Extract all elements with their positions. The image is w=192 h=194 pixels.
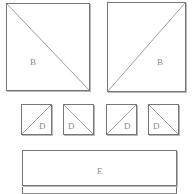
panel-d-3-label: D (124, 122, 131, 131)
panel-d-3[interactable] (106, 104, 137, 135)
panel-b-right-label: B (157, 58, 163, 67)
panel-b-left-label: B (30, 58, 36, 67)
diagonal-line-bl-tr (107, 105, 136, 134)
diagonal-line-tl-br (7, 4, 89, 90)
panel-b-left[interactable] (6, 3, 90, 91)
panel-d-1-label: D (39, 122, 46, 131)
panel-e-bottom-strip (22, 187, 177, 194)
panel-d-4-label: D (153, 122, 160, 131)
panel-d-2-label: D (68, 122, 75, 131)
diagram-canvas: B B D D D D E (0, 0, 192, 194)
panel-d-1[interactable] (21, 104, 52, 135)
diagonal-line-bl-tr (108, 3, 185, 91)
panel-e-label: E (97, 167, 103, 176)
panel-b-right[interactable] (107, 2, 186, 92)
diagonal-line-bl-tr (22, 105, 51, 134)
